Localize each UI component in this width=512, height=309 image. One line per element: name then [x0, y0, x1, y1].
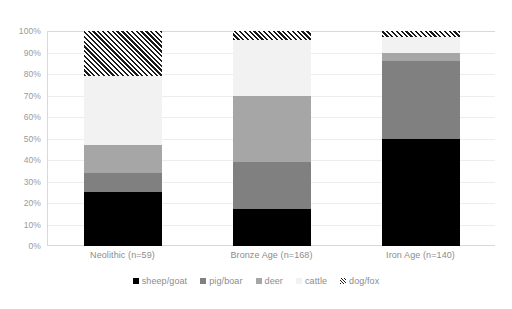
x-axis-tick-label: Neolithic (n=59)	[48, 250, 197, 260]
x-axis-tick-label: Bronze Age (n=168)	[197, 250, 346, 260]
bar-group[interactable]	[84, 31, 162, 246]
bar-segment[interactable]	[382, 37, 460, 52]
x-axis-labels: Neolithic (n=59)Bronze Age (n=168)Iron A…	[48, 250, 495, 266]
bar-group[interactable]	[382, 31, 460, 246]
chart-legend: sheep/goatpig/boardeercattledog/fox	[0, 276, 512, 286]
legend-label: sheep/goat	[142, 276, 188, 286]
bar-segment[interactable]	[382, 61, 460, 138]
legend-item[interactable]: dog/fox	[340, 276, 379, 286]
y-axis-tick: 0%	[29, 241, 42, 251]
legend-label: pig/boar	[209, 276, 242, 286]
bar-segment[interactable]	[382, 139, 460, 247]
stacked-bar-chart: 0%10%20%30%40%50%60%70%80%90%100% Neolit…	[0, 0, 512, 309]
legend-label: deer	[265, 276, 283, 286]
bar-segment[interactable]	[84, 192, 162, 246]
y-axis-tick: 80%	[24, 69, 41, 79]
bar-segment[interactable]	[84, 31, 162, 76]
y-axis-tick: 90%	[24, 48, 41, 58]
y-axis-tick: 70%	[24, 91, 41, 101]
legend-item[interactable]: cattle	[296, 276, 327, 286]
y-axis-tick: 60%	[24, 112, 41, 122]
bar-stack	[382, 31, 460, 246]
x-axis-tick-label: Iron Age (n=140)	[346, 250, 495, 260]
bars-layer	[48, 31, 495, 246]
y-axis-tick: 20%	[24, 198, 41, 208]
bar-segment[interactable]	[84, 145, 162, 173]
legend-item[interactable]: deer	[256, 276, 283, 286]
legend-swatch-icon	[200, 278, 206, 284]
bar-segment[interactable]	[84, 76, 162, 145]
legend-label: cattle	[305, 276, 327, 286]
y-axis-tick: 50%	[24, 134, 41, 144]
bar-stack	[84, 31, 162, 246]
legend-label: dog/fox	[349, 276, 379, 286]
bar-stack	[233, 31, 311, 246]
bar-segment[interactable]	[382, 31, 460, 37]
y-axis-tick: 100%	[19, 26, 41, 36]
caption-strip	[0, 300, 512, 309]
bar-segment[interactable]	[233, 40, 311, 96]
y-axis-tick: 10%	[24, 220, 41, 230]
bar-group[interactable]	[233, 31, 311, 246]
bar-segment[interactable]	[233, 96, 311, 163]
legend-swatch-icon	[340, 278, 346, 284]
legend-swatch-icon	[133, 278, 139, 284]
y-axis-tick: 30%	[24, 177, 41, 187]
legend-item[interactable]: pig/boar	[200, 276, 242, 286]
bar-segment[interactable]	[233, 31, 311, 40]
legend-swatch-icon	[256, 278, 262, 284]
y-axis-tick: 40%	[24, 155, 41, 165]
legend-item[interactable]: sheep/goat	[133, 276, 188, 286]
bar-segment[interactable]	[233, 162, 311, 209]
y-axis: 0%10%20%30%40%50%60%70%80%90%100%	[0, 31, 45, 246]
bar-segment[interactable]	[382, 53, 460, 62]
bar-segment[interactable]	[84, 173, 162, 192]
bar-segment[interactable]	[233, 209, 311, 246]
legend-swatch-icon	[296, 278, 302, 284]
